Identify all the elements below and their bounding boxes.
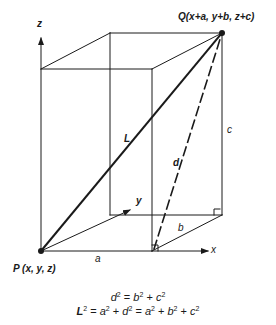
point-Q xyxy=(219,30,225,36)
diagonal-d-label: d xyxy=(173,158,179,168)
equation-d: d2 = b2 + c2 xyxy=(0,292,276,303)
point-P xyxy=(38,248,44,254)
diagonal-L-label: L xyxy=(124,134,130,144)
edge-top-left-depth xyxy=(41,33,110,69)
diagonal-L xyxy=(41,33,222,251)
z-axis-label: z xyxy=(37,19,42,29)
right-angle-back xyxy=(214,209,220,215)
edge-c-label: c xyxy=(227,125,232,135)
edge-top-right-depth xyxy=(152,33,222,69)
point-Q-label: Q(x+a, y+b, z+c) xyxy=(178,12,254,22)
y-axis-label: y xyxy=(136,196,142,206)
y-axis xyxy=(41,210,130,251)
x-axis-label: x xyxy=(211,245,216,255)
point-P-label: P (x, y, z) xyxy=(13,264,56,274)
diagonal-d xyxy=(154,33,222,249)
edge-a-label: a xyxy=(95,254,101,264)
equation-L: L2 = a2 + d2 = a2 + b2 + c2 xyxy=(0,306,276,317)
box-diagram xyxy=(0,0,276,325)
edge-b-label: b xyxy=(178,223,184,233)
